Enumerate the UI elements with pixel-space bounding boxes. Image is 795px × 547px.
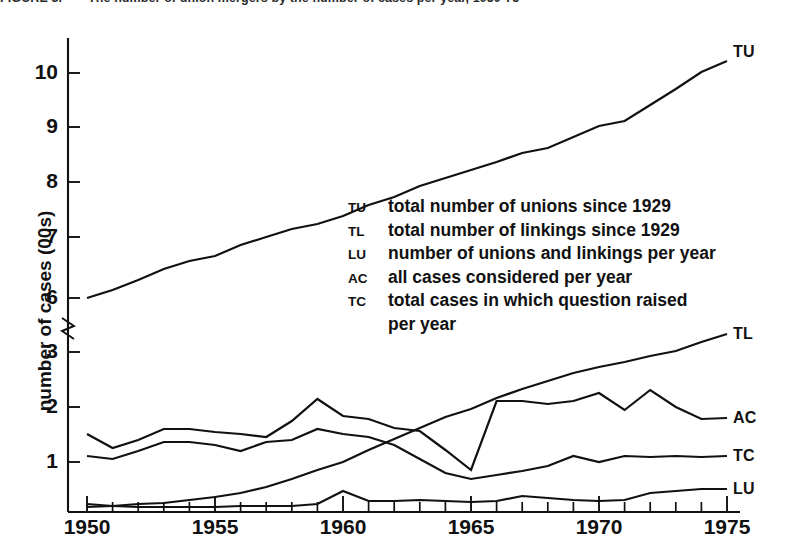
legend-text-ac: all cases considered per year xyxy=(388,267,632,288)
legend-continuation-line: per year xyxy=(388,314,768,335)
series-end-label-tc: TC xyxy=(733,447,755,465)
x-tick-label-1960: 1960 xyxy=(303,515,383,539)
y-axis-ticks-lower xyxy=(68,352,80,462)
legend-text-tc: total cases in which question raised xyxy=(388,290,688,311)
legend-text-tl: total number of linkings since 1929 xyxy=(388,220,680,241)
legend-item-tu: TU total number of unions since 1929 xyxy=(348,196,768,220)
y-tick-label-10: 10 xyxy=(18,60,58,84)
axis-break-marker xyxy=(62,318,74,339)
x-tick-label-1965: 1965 xyxy=(431,515,511,539)
x-tick-label-1975: 1975 xyxy=(687,515,767,539)
legend-item-tc: TC total cases in which question raised xyxy=(348,290,768,314)
x-tick-label-1970: 1970 xyxy=(559,515,639,539)
legend-key-tu: TU xyxy=(348,200,388,215)
x-tick-label-1950: 1950 xyxy=(47,515,127,539)
y-tick-label-1: 1 xyxy=(18,449,58,473)
legend-item-lu: LU number of unions and linkings per yea… xyxy=(348,243,768,267)
legend-key-lu: LU xyxy=(348,247,388,262)
series-line-ac xyxy=(87,390,727,470)
x-tick-label-1955: 1955 xyxy=(175,515,255,539)
legend-key-tl: TL xyxy=(348,224,388,239)
legend-text-tu: total number of unions since 1929 xyxy=(388,196,671,217)
legend-key-ac: AC xyxy=(348,271,388,286)
series-end-label-ac: AC xyxy=(733,409,757,427)
series-line-tl xyxy=(87,334,727,507)
series-end-label-lu: LU xyxy=(733,480,755,498)
legend-text-lu: number of unions and linkings per year xyxy=(388,243,716,264)
legend-item-ac: AC all cases considered per year xyxy=(348,267,768,291)
series-end-label-tu: TU xyxy=(733,43,755,61)
legend-key-tc: TC xyxy=(348,294,388,309)
series-line-lu xyxy=(87,489,727,507)
chart-legend: TU total number of unions since 1929 TL … xyxy=(348,196,768,335)
y-axis-ticks-upper xyxy=(68,73,80,298)
legend-item-tl: TL total number of linkings since 1929 xyxy=(348,220,768,244)
figure-container: FIGURE 3.The number of union mergers by … xyxy=(0,0,795,547)
y-tick-label-9: 9 xyxy=(18,114,58,138)
series-line-tc xyxy=(87,429,727,479)
y-axis-title: number of cases (00s) xyxy=(34,186,56,436)
